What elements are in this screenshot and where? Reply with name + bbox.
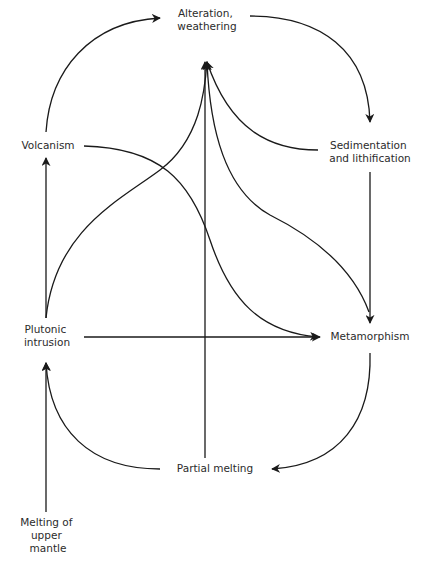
edge-volcanism-to-alteration	[46, 18, 160, 132]
node-label-line: Alteration,	[178, 7, 233, 19]
node-label-line: Metamorphism	[331, 330, 410, 342]
node-label-line: Melting of	[20, 516, 73, 528]
edge-plutonic-to-alteration	[46, 62, 207, 318]
node-label-line: Volcanism	[21, 139, 74, 151]
node-label-line: Sedimentation	[330, 139, 407, 151]
node-label-line: intrusion	[24, 336, 70, 348]
edge-sedimentation-to-alteration	[207, 62, 318, 150]
edge-volcanism-to-metamorphism	[84, 146, 318, 337]
node-label-line: and lithification	[329, 152, 411, 164]
node-label-line: mantle	[30, 542, 67, 554]
node-plutonic-intrusion: Plutonic intrusion	[24, 323, 70, 348]
node-melting-upper-mantle: Melting of upper mantle	[20, 516, 76, 554]
node-metamorphism: Metamorphism	[331, 330, 410, 342]
edge-metamorphism-to-partial-melting	[272, 353, 370, 469]
edge-metamorphism-to-alteration	[207, 62, 369, 312]
edge-partial-melting-to-plutonic	[46, 363, 160, 469]
node-label-line: Plutonic	[24, 323, 66, 335]
node-label-line: Partial melting	[177, 462, 253, 474]
node-alteration-weathering: Alteration, weathering	[177, 7, 236, 32]
node-label-line: upper	[31, 529, 62, 541]
rock-cycle-diagram: Alteration, weathering Sedimentation and…	[0, 0, 432, 581]
node-sedimentation-lithification: Sedimentation and lithification	[329, 139, 411, 164]
node-partial-melting: Partial melting	[177, 462, 253, 474]
edge-alteration-to-sedimentation	[250, 16, 370, 122]
node-label-line: weathering	[177, 20, 236, 32]
node-volcanism: Volcanism	[21, 139, 74, 151]
